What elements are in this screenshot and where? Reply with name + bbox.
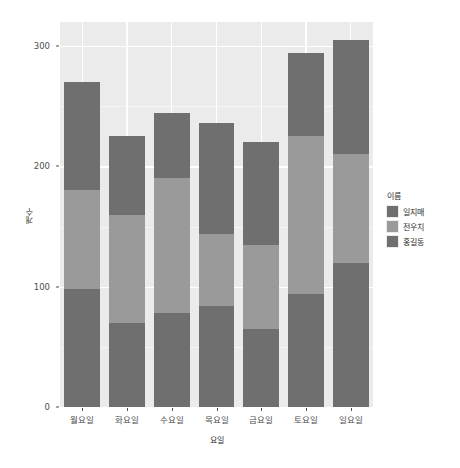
bar-segment[interactable] — [243, 245, 279, 329]
bar-segment[interactable] — [333, 263, 369, 407]
legend-color-swatch — [387, 221, 398, 232]
plot-panel — [60, 22, 373, 407]
x-axis-tick-label: 토요일 — [294, 413, 318, 425]
legend-key-background — [386, 205, 399, 218]
x-axis-tick-mark — [217, 408, 218, 411]
y-axis-tick-label: 200 — [24, 161, 50, 171]
bar-segment[interactable] — [199, 306, 235, 407]
legend-item-label: 일지매 — [403, 206, 424, 217]
y-axis-tick-label: 100 — [24, 282, 50, 292]
bar-stack[interactable] — [64, 22, 100, 407]
legend-color-swatch — [387, 236, 398, 247]
bar-segment[interactable] — [288, 294, 324, 407]
bar-stack[interactable] — [154, 22, 190, 407]
y-axis-tick-mark — [56, 166, 59, 167]
y-axis-title: 개수 — [22, 196, 38, 236]
chart-container: 개수 0100200300 월요일화요일수요일목요일금요일토요일일요일 요일 이… — [0, 0, 460, 468]
x-axis-tick-label: 금요일 — [249, 413, 273, 425]
y-axis-tick-mark — [56, 286, 59, 287]
bar-segment[interactable] — [109, 215, 145, 323]
x-axis-tick-mark — [306, 408, 307, 411]
y-axis-tick-label: 300 — [24, 41, 50, 51]
bar-segment[interactable] — [64, 82, 100, 190]
bar-segment[interactable] — [64, 190, 100, 289]
x-axis-tick-mark — [127, 408, 128, 411]
bar-stack[interactable] — [243, 22, 279, 407]
bar-segment[interactable] — [154, 178, 190, 313]
legend-item[interactable]: 일지매 — [386, 204, 456, 218]
x-axis-tick-mark — [82, 408, 83, 411]
bar-segment[interactable] — [199, 123, 235, 234]
x-axis-tick-mark — [351, 408, 352, 411]
legend-item-label: 전우치 — [403, 221, 424, 232]
legend-item-list: 일지매전우치홍길동 — [386, 204, 456, 248]
x-axis-tick-label: 수요일 — [160, 413, 184, 425]
legend-color-swatch — [387, 206, 398, 217]
legend-key-background — [386, 220, 399, 233]
bar-stack[interactable] — [288, 22, 324, 407]
bar-segment[interactable] — [333, 154, 369, 262]
y-axis-tick-mark — [56, 46, 59, 47]
legend-title: 이름 — [387, 190, 456, 201]
bar-segment[interactable] — [333, 40, 369, 154]
y-axis-tick-mark — [56, 407, 59, 408]
bar-stack[interactable] — [333, 22, 369, 407]
bar-segment[interactable] — [243, 329, 279, 407]
bar-segment[interactable] — [288, 136, 324, 294]
legend-item[interactable]: 전우치 — [386, 219, 456, 233]
bar-stack[interactable] — [109, 22, 145, 407]
bar-segment[interactable] — [154, 313, 190, 407]
x-axis-tick-label: 월요일 — [70, 413, 94, 425]
bar-segment[interactable] — [154, 113, 190, 178]
y-axis-tick-label: 0 — [24, 402, 50, 412]
bar-segment[interactable] — [109, 323, 145, 407]
x-axis-tick-label: 일요일 — [339, 413, 363, 425]
bar-segment[interactable] — [288, 53, 324, 136]
x-axis-tick-mark — [261, 408, 262, 411]
legend: 이름 일지매전우치홍길동 — [386, 190, 456, 249]
bar-stack[interactable] — [199, 22, 235, 407]
x-axis-tick-label: 화요일 — [115, 413, 139, 425]
legend-key-background — [386, 235, 399, 248]
bar-segment[interactable] — [64, 289, 100, 407]
x-axis-title: 요일 — [60, 434, 373, 445]
bar-segment[interactable] — [199, 234, 235, 306]
legend-item-label: 홍길동 — [403, 236, 424, 247]
x-axis-tick-label: 목요일 — [205, 413, 229, 425]
bar-segment[interactable] — [243, 142, 279, 244]
x-axis-tick-mark — [172, 408, 173, 411]
bar-segment[interactable] — [109, 136, 145, 214]
legend-item[interactable]: 홍길동 — [386, 234, 456, 248]
